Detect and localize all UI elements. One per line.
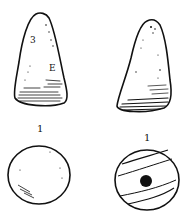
right-top-view <box>115 150 179 210</box>
left-cone-side-view <box>14 13 67 106</box>
right-cone-side-view <box>117 20 171 112</box>
right-scale-mark: 1 <box>144 132 150 143</box>
left-top-view <box>8 146 70 204</box>
left-scale-mark: 1 <box>37 123 43 134</box>
left-cone-mark-e: E <box>49 63 56 73</box>
left-cone-mark-3: 3 <box>30 35 36 45</box>
central-hole <box>140 175 152 187</box>
drawing-canvas: 3 E 1 1 <box>0 0 191 222</box>
